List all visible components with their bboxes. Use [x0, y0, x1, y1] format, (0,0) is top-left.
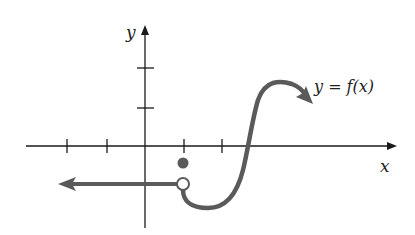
x-axis-label: x [380, 156, 390, 176]
y-axis-arrow-icon [141, 25, 149, 35]
function-graph: x y y = f(x) [0, 0, 415, 235]
left-ray [58, 177, 177, 191]
open-circle-hole [177, 178, 189, 190]
y-axis-label: y [125, 22, 136, 42]
x-axis-arrow-icon [387, 142, 397, 150]
curve-label: y = f(x) [313, 77, 374, 96]
right-curve [183, 82, 313, 208]
x-axis: x [26, 139, 397, 176]
y-axis: y [125, 22, 154, 228]
filled-dot-point [178, 158, 189, 169]
